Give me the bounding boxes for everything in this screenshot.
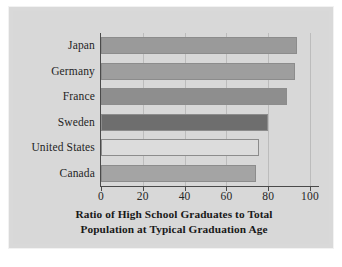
bar: [101, 139, 259, 156]
bar-row: Sweden: [101, 114, 310, 131]
gridline: [310, 33, 311, 186]
category-label: United States: [31, 139, 95, 156]
gridline: [185, 33, 186, 186]
x-axis-title-line: Population at Typical Graduation Age: [27, 222, 321, 237]
gridline: [226, 33, 227, 186]
bar-row: United States: [101, 139, 310, 156]
category-label: Japan: [68, 37, 95, 54]
x-tick-label: 80: [262, 190, 274, 202]
x-tick-label: 40: [179, 190, 191, 202]
x-tick-label: 100: [301, 190, 319, 202]
gridline: [268, 33, 269, 186]
x-tick-label: 0: [98, 190, 104, 202]
x-axis-title: Ratio of High School Graduates to TotalP…: [27, 207, 321, 237]
bar: [101, 88, 287, 105]
bar: [101, 114, 268, 131]
bar-row: Canada: [101, 165, 310, 182]
x-tick-label: 20: [137, 190, 149, 202]
category-label: Canada: [60, 165, 95, 182]
x-tick-label: 60: [220, 190, 232, 202]
category-label: France: [63, 88, 95, 105]
chart-figure: 020406080100 JapanGermanyFranceSwedenUni…: [8, 6, 334, 249]
bar: [101, 63, 295, 80]
category-label: Sweden: [58, 114, 95, 131]
gridline: [143, 33, 144, 186]
chart-inner-frame: 020406080100 JapanGermanyFranceSwedenUni…: [13, 11, 329, 244]
bar: [101, 165, 256, 182]
bar: [101, 37, 297, 54]
x-axis-line: [100, 186, 319, 187]
y-axis-line: [100, 33, 101, 186]
category-label: Germany: [51, 63, 95, 80]
plot-area: 020406080100 JapanGermanyFranceSwedenUni…: [101, 33, 310, 186]
x-axis-title-line: Ratio of High School Graduates to Total: [27, 207, 321, 222]
bar-row: Germany: [101, 63, 310, 80]
bar-row: France: [101, 88, 310, 105]
bar-row: Japan: [101, 37, 310, 54]
